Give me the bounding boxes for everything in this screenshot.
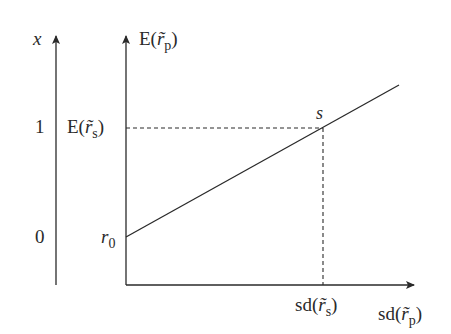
left-axis-tick-1: 1 — [35, 116, 45, 137]
std-dev-s-label: sd(r̃s) — [295, 294, 337, 319]
cml-diagram: x 1 0 E(r̃p) s E(r̃s) r0 sd(r̃s) sd(r̃p) — [0, 0, 451, 334]
std-dev-axis-label: sd(r̃p) — [378, 303, 422, 328]
point-s-label: s — [316, 103, 323, 123]
risk-free-rate-label: r0 — [101, 226, 115, 251]
expected-return-axis-label: E(r̃p) — [139, 28, 178, 53]
left-axis-tick-0: 0 — [35, 226, 45, 247]
capital-market-line — [126, 85, 399, 237]
expected-return-s-label: E(r̃s) — [67, 116, 104, 141]
left-axis-label: x — [32, 28, 42, 49]
